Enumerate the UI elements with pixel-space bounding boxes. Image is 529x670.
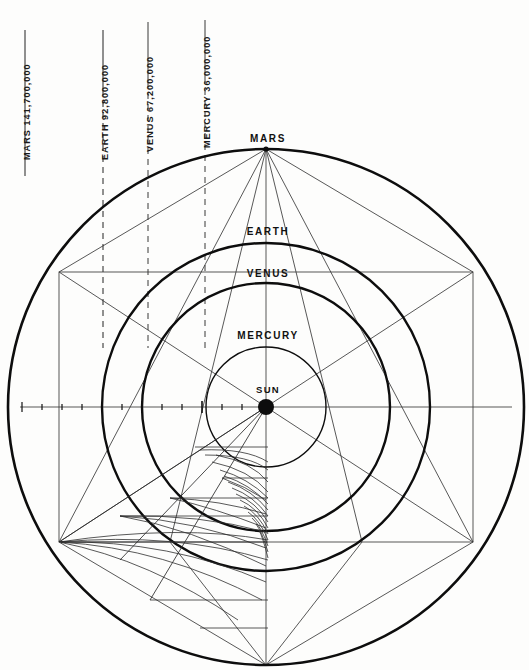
orbit-label-mars: MARS — [250, 133, 286, 144]
orbit-label-venus: VENUS — [247, 268, 289, 279]
sun-label: SUN — [256, 384, 280, 395]
orbit-label-earth: EARTH — [247, 226, 289, 237]
scale-label-mercury: MERCURY 36,000,000 — [202, 36, 212, 148]
sun-rays — [59, 407, 266, 600]
mars-point-marker — [263, 146, 268, 151]
diagram-canvas: MARS 141,700,000 EARTH 92,800,000 VENUS … — [0, 0, 529, 670]
scale-label-venus: VENUS 67,200,000 — [145, 56, 155, 152]
orbit-label-mercury: MERCURY — [237, 330, 298, 341]
sun-marker — [258, 399, 274, 415]
scale-label-mars: MARS 141,700,000 — [22, 63, 32, 160]
measurement-rules — [25, 20, 205, 348]
scale-label-earth: EARTH 92,800,000 — [100, 64, 110, 160]
